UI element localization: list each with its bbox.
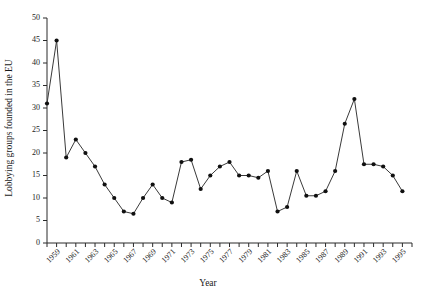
x-tick-label: 1959 — [44, 247, 62, 265]
x-tick-label: 1965 — [102, 247, 120, 265]
x-tick-label: 1963 — [83, 247, 101, 265]
data-point — [323, 189, 327, 193]
data-point — [55, 38, 59, 42]
data-point — [304, 194, 308, 198]
data-point — [45, 101, 49, 105]
x-tick-label: 1977 — [217, 247, 235, 265]
data-point — [103, 182, 107, 186]
x-tick-label: 1989 — [332, 247, 350, 265]
x-axis-tick-labels: 1959196119631965196719691971197319751977… — [44, 247, 407, 265]
data-point — [93, 164, 97, 168]
data-series-line — [47, 41, 402, 214]
data-point — [151, 182, 155, 186]
x-tick-label: 1985 — [294, 247, 312, 265]
data-point — [199, 187, 203, 191]
x-tick-label: 1981 — [256, 247, 274, 265]
data-point — [314, 194, 318, 198]
data-point — [256, 176, 260, 180]
x-axis-ticks — [47, 243, 412, 247]
data-point — [343, 122, 347, 126]
x-tick-label: 1975 — [198, 247, 216, 265]
line-chart: 05101520253035404550 1959196119631965196… — [0, 0, 422, 295]
data-point — [160, 196, 164, 200]
data-point — [122, 209, 126, 213]
data-point — [170, 200, 174, 204]
data-point — [391, 173, 395, 177]
data-point — [74, 137, 78, 141]
y-axis-title: Lobbying groups founded in the EU — [4, 59, 14, 197]
data-series-points — [45, 38, 405, 215]
x-tick-label: 1983 — [275, 247, 293, 265]
y-tick-label: 45 — [32, 35, 40, 44]
x-tick-label: 1961 — [64, 247, 82, 265]
x-tick-label: 1969 — [140, 247, 158, 265]
x-tick-label: 1987 — [313, 247, 331, 265]
data-point — [83, 151, 87, 155]
data-point — [227, 160, 231, 164]
data-point — [275, 209, 279, 213]
x-tick-label: 1973 — [179, 247, 197, 265]
y-tick-label: 20 — [32, 148, 40, 157]
x-tick-label: 1991 — [352, 247, 370, 265]
data-point — [208, 173, 212, 177]
y-tick-label: 0 — [36, 238, 40, 247]
data-point — [400, 189, 404, 193]
y-tick-label: 35 — [32, 80, 40, 89]
y-tick-label: 15 — [32, 170, 40, 179]
data-point — [131, 212, 135, 216]
x-tick-label: 1979 — [236, 247, 254, 265]
data-point — [266, 169, 270, 173]
chart-canvas: 05101520253035404550 1959196119631965196… — [0, 0, 422, 295]
y-tick-label: 5 — [36, 215, 40, 224]
x-tick-label: 1993 — [371, 247, 389, 265]
y-tick-label: 25 — [32, 125, 40, 134]
x-tick-label: 1967 — [121, 247, 139, 265]
y-tick-label: 30 — [32, 103, 40, 112]
data-point — [285, 205, 289, 209]
y-axis-ticks — [43, 18, 47, 243]
data-point — [189, 158, 193, 162]
data-point — [218, 164, 222, 168]
y-axis-tick-labels: 05101520253035404550 — [32, 13, 40, 247]
y-tick-label: 50 — [32, 13, 40, 22]
data-point — [64, 155, 68, 159]
y-tick-label: 10 — [32, 193, 40, 202]
data-point — [362, 162, 366, 166]
data-point — [381, 164, 385, 168]
data-point — [352, 97, 356, 101]
data-point — [247, 173, 251, 177]
x-axis-title: Year — [199, 278, 217, 288]
data-point — [333, 169, 337, 173]
data-point — [295, 169, 299, 173]
x-tick-label: 1995 — [390, 247, 408, 265]
y-tick-label: 40 — [32, 58, 40, 67]
data-point — [141, 196, 145, 200]
data-point — [179, 160, 183, 164]
data-point — [112, 196, 116, 200]
data-point — [371, 162, 375, 166]
data-point — [237, 173, 241, 177]
x-tick-label: 1971 — [160, 247, 178, 265]
